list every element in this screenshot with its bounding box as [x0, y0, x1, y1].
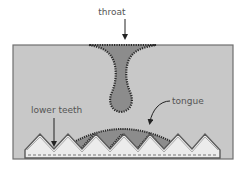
weld-cross-section-diagram: throat tongue lower teeth: [0, 0, 246, 170]
label-tongue: tongue: [172, 96, 204, 106]
label-throat: throat: [98, 7, 126, 17]
label-lower-teeth: lower teeth: [31, 105, 82, 115]
